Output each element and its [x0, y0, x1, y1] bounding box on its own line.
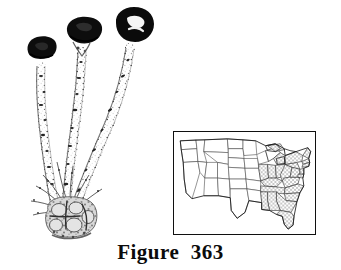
united-states-distribution-map: [173, 131, 316, 235]
figure-plate: Figure 363: [0, 0, 341, 270]
cap-center: [67, 17, 102, 56]
cap-left: [27, 36, 56, 59]
fungal-specimen-illustration: [10, 4, 170, 240]
fruiting-body-left: [27, 36, 59, 208]
figure-caption: Figure 363: [0, 239, 341, 265]
cap-right: [116, 7, 154, 42]
map-region-west: [180, 139, 249, 218]
